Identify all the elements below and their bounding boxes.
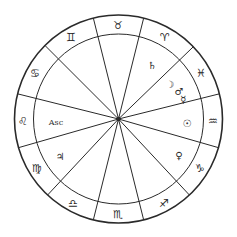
leo-sign: ♌ (18, 115, 28, 128)
virgo-sign: ♍ (32, 162, 42, 175)
aquarius-sign: ♒ (208, 115, 218, 128)
planet-glyphs: ♄☽♂☿☉♀♃ (56, 60, 192, 162)
jupiter-glyph: ♃ (56, 151, 65, 162)
house-cusp-line (119, 18, 144, 119)
house-cusp-line (119, 119, 144, 220)
venus-glyph: ♀ (175, 150, 182, 161)
house-cusp-line (93, 18, 118, 119)
saturn-glyph: ♄ (148, 60, 157, 71)
astrological-chart-wheel: ♓♈♉♊♋♌♍♎♏♐♑♒ ♄☽♂☿☉♀♃ Asc (0, 0, 237, 237)
capricorn-sign: ♑ (195, 162, 205, 175)
mercury-glyph: ☿ (180, 94, 186, 105)
house-cusp-line (93, 119, 118, 220)
libra-sign: ♎ (68, 197, 78, 210)
house-cusp-line (119, 47, 194, 119)
house-cusp-line (18, 94, 119, 119)
house-cusp-line (45, 45, 119, 119)
scorpio-sign: ♏ (113, 208, 123, 221)
ascendant-label: Asc (48, 118, 64, 127)
cancer-sign: ♋ (30, 67, 40, 80)
sun-glyph: ☉ (183, 118, 192, 129)
aries-sign: ♈ (160, 31, 170, 44)
moon-glyph: ☽ (166, 79, 175, 90)
gemini-sign: ♊ (66, 31, 76, 44)
taurus-sign: ♉ (113, 19, 123, 32)
center-hub (116, 117, 120, 121)
pisces-sign: ♓ (196, 67, 206, 80)
sagittarius-sign: ♐ (159, 197, 169, 210)
house-cusp-line (119, 94, 220, 119)
